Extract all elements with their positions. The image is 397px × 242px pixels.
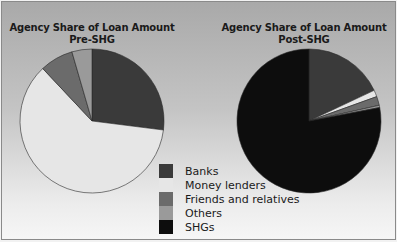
legend-label: Banks	[185, 165, 218, 178]
legend-label: Friends and relatives	[185, 193, 299, 206]
legend-item: Others	[159, 206, 299, 220]
legend-swatch	[159, 206, 173, 220]
legend-item: Friends and relatives	[159, 192, 299, 206]
legend-swatch	[159, 164, 173, 178]
pre-shg-title-line2: Pre-SHG	[2, 34, 182, 46]
legend-label: Others	[185, 207, 222, 220]
chart-frame: Agency Share of Loan Amount Pre-SHG Agen…	[1, 1, 396, 240]
legend-label: SHGs	[185, 221, 215, 234]
post-shg-title-line2: Post-SHG	[214, 34, 394, 46]
pre-shg-pie	[18, 47, 166, 195]
legend-swatch	[159, 220, 173, 234]
post-shg-title-line1: Agency Share of Loan Amount	[214, 22, 394, 34]
legend-label: Money lenders	[185, 179, 266, 192]
legend-item: Banks	[159, 164, 299, 178]
legend-item: Money lenders	[159, 178, 299, 192]
legend: BanksMoney lendersFriends and relativesO…	[159, 164, 299, 234]
legend-item: SHGs	[159, 220, 299, 234]
post-shg-title: Agency Share of Loan Amount Post-SHG	[214, 22, 394, 46]
pie-slice-banks	[92, 49, 164, 130]
legend-swatch	[159, 192, 173, 206]
legend-swatch	[159, 178, 173, 192]
pre-shg-title-line1: Agency Share of Loan Amount	[2, 22, 182, 34]
pre-shg-title: Agency Share of Loan Amount Pre-SHG	[2, 22, 182, 46]
